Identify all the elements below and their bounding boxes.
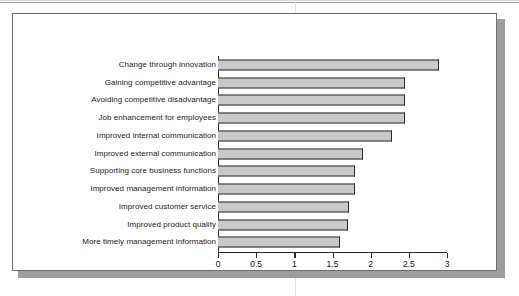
- x-axis-tick: [218, 253, 219, 258]
- x-axis-tick: [371, 253, 372, 258]
- x-axis-tick: [409, 253, 410, 258]
- bar-row: Improved management information: [13, 180, 498, 198]
- x-axis-tick-label: 1: [292, 259, 297, 270]
- bar-track: [218, 77, 405, 88]
- bar-row: Improved external communication: [13, 145, 498, 163]
- bar-row: Improved product quality: [13, 216, 498, 234]
- bar-row: Improved customer service: [13, 198, 498, 216]
- bar-row: Job enhancement for employees: [13, 109, 498, 127]
- bar-category-label: Improved management information: [90, 184, 216, 194]
- bar: [218, 201, 349, 212]
- bar-category-label: Supporting core business functions: [90, 166, 216, 176]
- bar: [218, 59, 439, 70]
- bar-category-label: More timely management information: [82, 237, 216, 247]
- bar-row: Supporting core business functions: [13, 163, 498, 181]
- bar-row: Gaining competitive advantage: [13, 74, 498, 92]
- bar-row: Improved internal communication: [13, 127, 498, 145]
- x-axis-tick: [294, 253, 295, 258]
- bar: [218, 95, 405, 106]
- bar: [218, 130, 392, 141]
- bar-category-label: Improved internal communication: [97, 131, 216, 141]
- bar: [218, 77, 405, 88]
- bar-track: [218, 184, 355, 195]
- bar-category-label: Improved product quality: [127, 220, 216, 230]
- bar-track: [218, 237, 340, 248]
- x-axis-tick: [333, 253, 334, 258]
- bar-track: [218, 166, 355, 177]
- page-top-edge-rule: [0, 2, 519, 3]
- bar-track: [218, 95, 405, 106]
- bar-track: [218, 113, 405, 124]
- bar: [218, 184, 355, 195]
- bar-row: Change through innovation: [13, 56, 498, 74]
- bar: [218, 113, 405, 124]
- page-top-edge-highlight: [0, 0, 519, 1]
- x-axis-tick-label: 1.5: [327, 259, 339, 270]
- bar: [218, 166, 355, 177]
- bar-row: Avoiding competitive disadvantage: [13, 92, 498, 110]
- bar-category-label: Gaining competitive advantage: [105, 78, 216, 88]
- bar: [218, 148, 363, 159]
- bar: [218, 219, 348, 230]
- x-axis-tick-label: 2: [368, 259, 373, 270]
- x-axis-tick-label: 2.5: [403, 259, 415, 270]
- bar-row: More timely management information: [13, 234, 498, 252]
- bar-track: [218, 59, 439, 70]
- bar-category-label: Change through innovation: [119, 60, 216, 70]
- figure-frame: Change through innovationGaining competi…: [12, 13, 497, 271]
- x-axis-tick-label: 0: [216, 259, 221, 270]
- bar-track: [218, 130, 392, 141]
- bar: [218, 237, 340, 248]
- bar-category-label: Improved external communication: [94, 149, 216, 159]
- x-axis-tick: [256, 253, 257, 258]
- bar-track: [218, 148, 363, 159]
- bar-track: [218, 219, 348, 230]
- x-axis-tick: [447, 253, 448, 258]
- x-axis-tick-label: 0.5: [250, 259, 262, 270]
- bar-category-label: Job enhancement for employees: [98, 113, 216, 123]
- x-axis-tick-label: 3: [445, 259, 450, 270]
- bar-category-label: Improved customer service: [119, 202, 216, 212]
- bar-track: [218, 201, 349, 212]
- bar-category-label: Avoiding competitive disadvantage: [91, 95, 216, 105]
- bar-chart-plot-area: Change through innovationGaining competi…: [13, 14, 498, 272]
